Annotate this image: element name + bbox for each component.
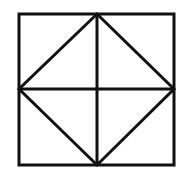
geometric-diagram (0, 0, 187, 171)
